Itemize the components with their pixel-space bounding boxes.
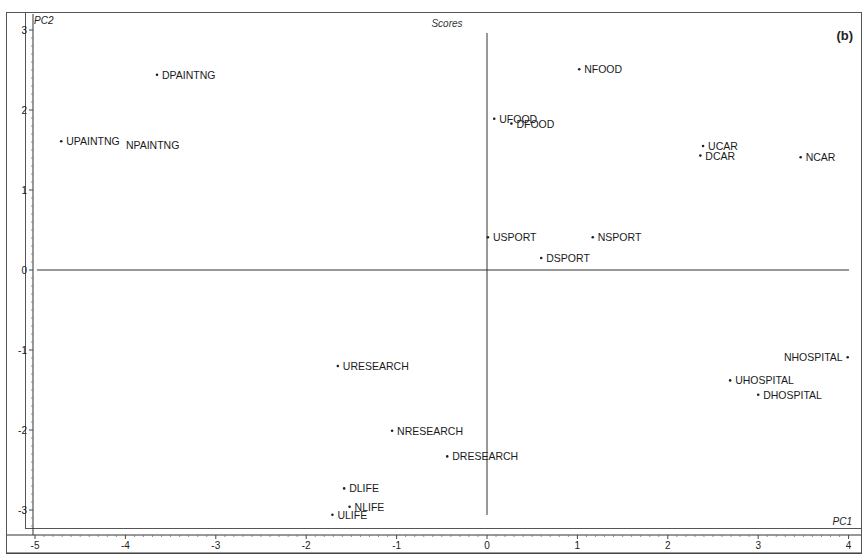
chart-title: Scores [431,18,462,29]
data-point: NRESEARCH [391,425,463,437]
data-point: ULIFE [331,509,367,521]
x-tick-label: -4 [121,540,130,551]
data-point: NSPORT [591,231,641,243]
point-label: NFOOD [584,63,622,75]
point-marker-icon [60,140,63,143]
point-marker-icon [578,68,581,71]
point-marker-icon [702,145,705,148]
point-marker-icon [699,154,702,157]
point-marker-icon [487,236,490,239]
x-tick-label: -1 [392,540,401,551]
point-marker-icon [846,356,849,359]
point-marker-icon [757,394,760,397]
point-marker-icon [343,487,346,490]
point-marker-icon [156,74,159,77]
y-tick-label: 1 [21,185,27,196]
point-marker-icon [591,236,594,239]
y-axis-label: PC2 [34,15,54,26]
point-label: UPAINTNG [66,135,119,147]
data-point: DCAR [699,150,735,162]
data-points: DPAINTNGUPAINTNGNPAINTNGNFOODUFOODDFOODU… [60,63,849,521]
point-label: ULIFE [337,509,367,521]
point-marker-icon [729,379,732,382]
data-point: DHOSPITAL [757,389,822,401]
point-marker-icon [331,514,334,517]
pca-score-plot: 3210-1-2-3-5-4-3-2-101234 DPAINTNGUPAINT… [0,0,865,560]
data-point: NCAR [799,151,835,163]
point-label: NCAR [806,151,836,163]
x-tick-label: -2 [302,540,311,551]
point-marker-icon [493,118,496,121]
y-tick-label: 3 [21,25,27,36]
point-label: USPORT [493,231,537,243]
x-tick-label: -5 [31,540,40,551]
x-tick-label: 1 [575,540,581,551]
point-marker-icon [348,506,351,509]
data-point: UPAINTNG [60,135,120,147]
point-marker-icon [799,156,802,159]
point-label: NPAINTNG [126,139,179,151]
x-axis-label: PC1 [833,516,852,527]
y-tick-label: 0 [21,265,27,276]
point-label: NHOSPITAL [784,351,843,363]
data-point: DRESEARCH [446,450,518,462]
point-label: NRESEARCH [397,425,463,437]
point-label: URESEARCH [343,360,409,372]
point-label: DSPORT [546,252,590,264]
point-label: DLIFE [349,482,379,494]
data-point: DLIFE [343,482,379,494]
outer-frame [7,13,862,554]
zero-lines [37,33,849,515]
point-label: DRESEARCH [452,450,518,462]
x-tick-label: -3 [211,540,220,551]
point-label: UHOSPITAL [735,374,794,386]
point-marker-icon [540,257,543,260]
x-tick-label: 3 [755,540,761,551]
point-label: DFOOD [516,118,554,130]
data-point: DSPORT [540,252,590,264]
point-label: DHOSPITAL [763,389,822,401]
y-tick-label: -1 [18,345,27,356]
x-tick-label: 4 [846,540,852,551]
data-point: NFOOD [578,63,623,75]
point-label: DCAR [705,150,735,162]
panel-label: (b) [836,28,853,43]
point-label: NSPORT [598,231,642,243]
point-marker-icon [446,455,449,458]
y-tick-label: 2 [21,105,27,116]
data-point: NHOSPITAL [784,351,849,363]
point-marker-icon [391,430,394,433]
data-point: NPAINTNG [126,139,179,151]
data-point: DPAINTNG [156,69,216,81]
x-tick-label: 2 [665,540,671,551]
data-point: UHOSPITAL [729,374,794,386]
x-tick-label: 0 [484,540,490,551]
axes: 3210-1-2-3-5-4-3-2-101234 [7,14,861,553]
point-marker-icon [510,122,513,125]
data-point: DFOOD [510,118,555,130]
y-tick-label: -2 [18,425,27,436]
y-tick-label: -3 [18,505,27,516]
point-label: DPAINTNG [162,69,215,81]
data-point: URESEARCH [337,360,409,372]
point-marker-icon [337,365,340,368]
data-point: USPORT [487,231,537,243]
